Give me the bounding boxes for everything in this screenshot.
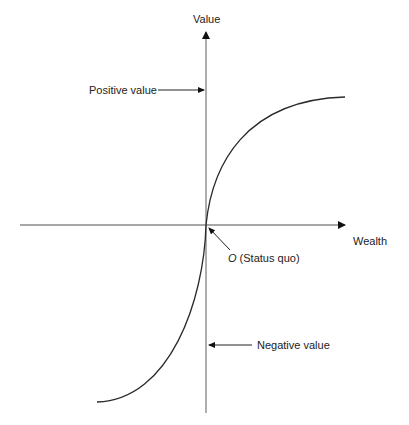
origin-letter: O <box>228 252 237 264</box>
negative-value-label: Negative value <box>257 340 330 351</box>
value-curve <box>206 97 345 225</box>
value-function-diagram <box>0 0 409 425</box>
origin-text: (Status quo) <box>237 252 300 264</box>
x-axis-label: Wealth <box>353 236 387 247</box>
status-quo-label: O (Status quo) <box>228 253 300 264</box>
value-curve-loss <box>97 225 206 402</box>
y-axis-label: Value <box>193 14 220 25</box>
positive-value-label: Positive value <box>89 85 157 96</box>
status-quo-arrow <box>209 228 230 250</box>
